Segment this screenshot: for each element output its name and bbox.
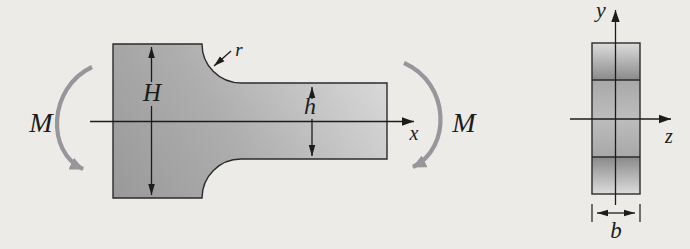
fillet-leader-arrow	[214, 51, 231, 66]
label-axis-z: z	[664, 125, 673, 147]
label-fillet-radius: r	[235, 39, 243, 60]
label-moment-left: M	[28, 107, 54, 138]
label-axis-x: x	[409, 122, 419, 144]
figure-canvas: M M H h r x y z b	[0, 0, 690, 249]
label-large-height: H	[142, 79, 163, 106]
label-small-height: h	[304, 93, 316, 119]
moment-arc-right	[404, 63, 441, 167]
stress-concentration-figure: M M H h r x y z b	[0, 0, 690, 249]
moment-arc-left	[57, 67, 92, 169]
label-axis-y: y	[594, 0, 606, 22]
label-moment-right: M	[451, 107, 477, 138]
label-section-width: b	[610, 218, 622, 243]
